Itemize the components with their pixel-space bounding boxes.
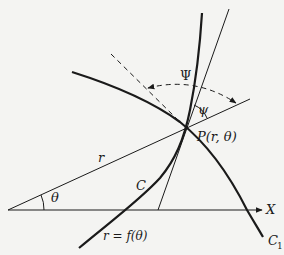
- radius-label: r: [98, 150, 105, 165]
- tangent-line-c: [158, 9, 229, 210]
- curve-c-label: C: [136, 178, 146, 193]
- theta-label: θ: [51, 190, 59, 205]
- curve-c1-subscript: 1: [277, 241, 283, 251]
- radius-line: [8, 99, 250, 210]
- theta-arc: [41, 195, 44, 210]
- tangent-line-c1-dashed: [111, 54, 180, 122]
- polar-orthogonal-trajectory-diagram: Ψ ψ P(r, θ) r θ C X C 1 r = f(θ): [0, 0, 284, 255]
- psi-upper-label: Ψ: [180, 68, 191, 83]
- x-axis-label: X: [265, 202, 276, 217]
- equation-label: r = f(θ): [103, 229, 148, 243]
- point-p-label: P(r, θ): [196, 129, 237, 144]
- curve-c: [79, 13, 202, 248]
- psi-lower-label: ψ: [198, 102, 209, 117]
